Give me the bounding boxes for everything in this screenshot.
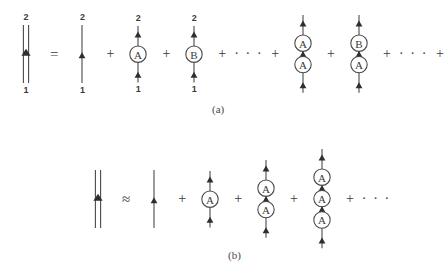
diagram-term: 2B1 [177, 13, 211, 95]
plus-operator: + [435, 47, 445, 61]
endpoint-label-top: 2 [23, 12, 28, 23]
plus-operator: + [105, 47, 115, 61]
ellipsis: · · · [233, 47, 264, 61]
endpoint-label-bottom [302, 95, 305, 106]
vertex-label: B [355, 38, 362, 50]
diagram-term: A [193, 158, 227, 240]
endpoint-label-top [321, 136, 324, 147]
single-line-propagator: AA [286, 13, 320, 95]
diagram-term: 21 [9, 12, 43, 96]
endpoint-label-bottom [358, 95, 361, 106]
ellipsis-dots: · · · [398, 47, 429, 61]
single-line-propagator: A [193, 169, 227, 229]
endpoint-label-bottom [209, 229, 212, 240]
plus-operator: + [326, 47, 336, 61]
endpoint-label-top [302, 2, 305, 13]
endpoint-label-top [358, 2, 361, 13]
endpoint-label-bottom [265, 240, 268, 251]
ellipsis: · · · [398, 47, 429, 61]
vertex-label: A [318, 215, 326, 227]
caption-b: (b) [228, 249, 241, 261]
ellipsis: · · · [361, 192, 392, 206]
diagram-term [137, 157, 171, 241]
single-line-propagator: A [121, 24, 155, 84]
single-line-propagator [137, 168, 171, 230]
vertex-label: A [262, 183, 270, 195]
equation-row-a: 21=21+2A1+2B1+· · ·+ AA + BA +· · ·+ AAA… [8, 6, 445, 102]
diagram-term: AA [249, 147, 283, 251]
ellipsis-dots: · · · [233, 47, 264, 61]
single-line-propagator [65, 23, 99, 85]
vertex-label: A [355, 59, 363, 71]
endpoint-label-top: 2 [80, 12, 85, 23]
diagram-term [81, 157, 115, 241]
diagram-root: 21=21+2A1+2B1+· · ·+ AA + BA +· · ·+ AAA… [0, 0, 445, 271]
plus-operator: + [161, 47, 171, 61]
endpoint-label-bottom [153, 230, 156, 241]
single-line-propagator: AAA [305, 147, 339, 250]
plus-operator: + [382, 47, 392, 61]
vertex-label: A [299, 59, 307, 71]
diagram-term: AAA [305, 136, 339, 261]
double-line-propagator [81, 168, 115, 230]
vertex-label: A [318, 193, 326, 205]
caption-a: (a) [212, 103, 224, 115]
diagram-term: 21 [65, 12, 99, 96]
endpoint-label-top: 2 [192, 13, 197, 24]
endpoint-label-bottom [97, 230, 100, 241]
vertex-label: A [134, 48, 142, 60]
single-line-propagator: BA [342, 13, 376, 95]
endpoint-label-top [97, 157, 100, 168]
endpoint-label-bottom [321, 251, 324, 262]
endpoint-label-top: 2 [136, 13, 141, 24]
plus-operator: + [345, 192, 355, 206]
endpoint-label-top [209, 158, 212, 169]
vertex-label: B [191, 48, 198, 60]
plus-operator: + [217, 47, 227, 61]
approx-operator: ≈ [121, 192, 131, 207]
diagram-term: BA [342, 2, 376, 106]
vertex-label: A [206, 193, 214, 205]
endpoint-label-bottom: 1 [192, 84, 197, 95]
endpoint-label-top [153, 157, 156, 168]
plus-operator: + [233, 192, 243, 206]
vertex-label: A [318, 172, 326, 184]
double-line-propagator [9, 23, 43, 85]
vertex-label: A [262, 204, 270, 216]
plus-operator: + [270, 47, 280, 61]
single-line-propagator: AA [249, 158, 283, 240]
plus-operator: + [289, 192, 299, 206]
endpoint-label-top [265, 147, 268, 158]
equals-operator: = [49, 47, 59, 62]
single-line-propagator: B [177, 24, 211, 84]
plus-operator: + [177, 192, 187, 206]
endpoint-label-bottom: 1 [23, 85, 28, 96]
endpoint-label-bottom: 1 [136, 84, 141, 95]
equation-row-b: ≈ + A + AA + AAA +· · · [80, 146, 393, 252]
ellipsis-dots: · · · [361, 192, 392, 206]
vertex-label: A [299, 38, 307, 50]
endpoint-label-bottom: 1 [80, 85, 85, 96]
diagram-term: AA [286, 2, 320, 106]
diagram-term: 2A1 [121, 13, 155, 95]
